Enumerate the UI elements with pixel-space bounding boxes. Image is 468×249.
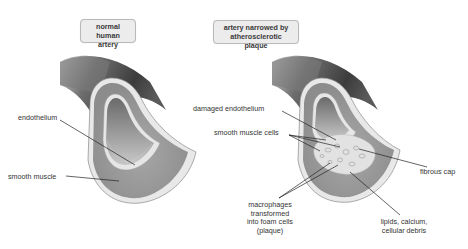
title-narrowed-line2: atherosclerotic plaque <box>218 32 294 50</box>
title-normal-line2: artery <box>85 40 131 49</box>
label-fibrous-cap: fibrous cap <box>420 168 455 177</box>
artery-comparison-diagram: normal human artery artery narrowed by a… <box>0 0 468 249</box>
title-normal-artery: normal human artery <box>80 19 136 43</box>
title-narrowed-line1: artery narrowed by <box>218 23 294 32</box>
label-damaged-endothelium: damaged endothelium <box>193 105 264 114</box>
label-lipids: lipids, calcium, cellular debris <box>375 218 433 235</box>
label-lipids-line2: cellular debris <box>375 227 433 236</box>
title-narrowed-artery: artery narrowed by atherosclerotic plaqu… <box>213 20 299 44</box>
label-smooth-muscle: smooth muscle <box>8 173 56 182</box>
label-macrophages: macrophages transformed into foam cells … <box>240 201 300 235</box>
normal-artery-illustration <box>60 56 196 203</box>
label-endothelium: endothelium <box>18 114 57 123</box>
label-smooth-muscle-cells: smooth muscle cells <box>214 129 279 138</box>
narrowed-artery-illustration <box>272 56 427 215</box>
title-normal-line1: normal human <box>85 22 131 40</box>
label-macrophages-line4: (plaque) <box>240 227 300 236</box>
